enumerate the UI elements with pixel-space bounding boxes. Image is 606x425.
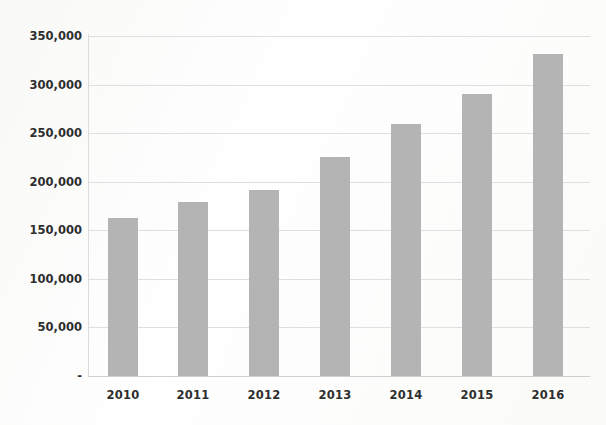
y-axis-label-100000: 100,000 [6, 272, 82, 286]
y-axis-label-250000: 250,000 [6, 126, 82, 140]
bar-2012[interactable] [249, 190, 279, 377]
bar-2013[interactable] [320, 157, 350, 376]
x-axis-label-2010: 2010 [88, 388, 158, 402]
x-axis-label-2011: 2011 [158, 388, 228, 402]
y-axis-label-300000: 300,000 [6, 78, 82, 92]
plot-area [88, 36, 590, 376]
y-axis-label-350000: 350,000 [6, 29, 82, 43]
y-axis-label-200000: 200,000 [6, 175, 82, 189]
x-axis-label-2014: 2014 [371, 388, 441, 402]
x-axis-label-2012: 2012 [229, 388, 299, 402]
gridline-250000 [88, 133, 590, 134]
bar-chart: 350,000 300,000 250,000 200,000 150,000 … [0, 0, 606, 425]
bar-2011[interactable] [178, 202, 208, 376]
x-axis-label-2016: 2016 [513, 388, 583, 402]
x-axis-line [88, 376, 590, 377]
gridline-300000 [88, 85, 590, 86]
bar-2015[interactable] [462, 94, 492, 376]
x-axis-label-2013: 2013 [300, 388, 370, 402]
y-axis-label-50000: 50,000 [6, 320, 82, 334]
y-axis-label-zero: - [6, 369, 82, 383]
x-axis-label-2015: 2015 [442, 388, 512, 402]
y-axis-label-150000: 150,000 [6, 223, 82, 237]
gridline-350000 [88, 36, 590, 37]
bar-2010[interactable] [108, 218, 138, 376]
bar-2014[interactable] [391, 124, 421, 376]
bar-2016[interactable] [533, 54, 563, 377]
